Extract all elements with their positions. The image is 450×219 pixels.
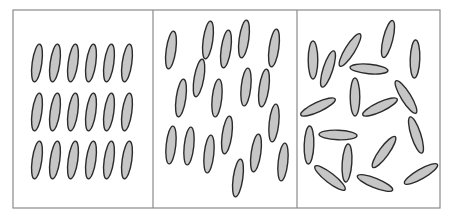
rod-ellipse [350,78,360,116]
rod-ellipse [308,41,318,79]
phase-diagram [0,0,450,219]
